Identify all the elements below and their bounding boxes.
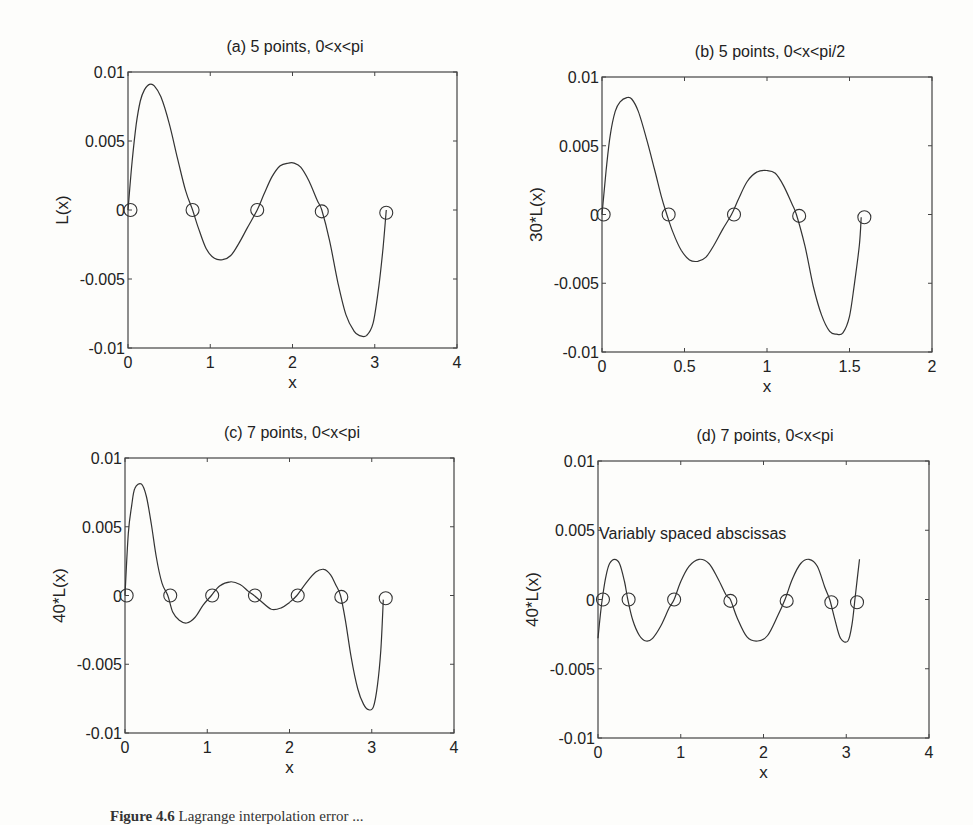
caption-label: Figure 4.6 (110, 808, 175, 824)
y-tick-label: -0.005 (77, 656, 122, 673)
node-marker (379, 592, 392, 605)
subplot-title: (b) 5 points, 0<x<pi/2 (695, 43, 845, 60)
curve-line (128, 84, 386, 337)
x-tick-label: 3 (842, 744, 851, 761)
node-marker (291, 589, 304, 602)
subplot-a: (a) 5 points, 0<x<pi01234-0.01-0.00500.0… (53, 38, 462, 392)
x-tick-label: 1 (203, 739, 212, 756)
x-tick-label: 3 (370, 354, 379, 371)
x-tick-label: 2 (928, 358, 937, 375)
node-marker (164, 589, 177, 602)
y-tick-label: 0.005 (85, 133, 125, 150)
y-tick-label: 0 (586, 592, 595, 609)
node-marker (851, 596, 864, 609)
y-axis-label: 40*L(x) (50, 568, 69, 623)
x-tick-label: 1 (676, 744, 685, 761)
x-tick-label: 4 (450, 739, 459, 756)
y-tick-label: -0.01 (559, 730, 596, 747)
x-tick-label: 2 (759, 744, 768, 761)
y-tick-label: -0.01 (89, 340, 126, 357)
y-axis-label: 40*L(x) (523, 572, 542, 627)
x-axis-label: x (285, 758, 294, 777)
y-tick-label: 0.01 (564, 453, 595, 470)
subplot-title: (d) 7 points, 0<x<pi (697, 427, 834, 444)
caption-text: Lagrange interpolation error ... (178, 808, 363, 824)
y-tick-label: 0.01 (568, 69, 599, 86)
x-tick-label: 2 (288, 354, 297, 371)
y-axis-label: 30*L(x) (527, 187, 546, 242)
curve-line (602, 97, 861, 334)
x-tick-label: 1 (763, 358, 772, 375)
subplot-title: (a) 5 points, 0<x<pi (227, 38, 364, 55)
y-tick-label: 0.01 (94, 64, 125, 81)
curve-line (598, 559, 860, 642)
x-tick-label: 1 (206, 354, 215, 371)
axes-box (128, 72, 457, 348)
x-axis-label: x (763, 377, 772, 396)
x-tick-label: 3 (367, 739, 376, 756)
x-tick-label: 1.5 (838, 358, 860, 375)
node-marker (793, 209, 806, 222)
y-tick-label: -0.01 (563, 344, 600, 361)
x-tick-label: 4 (453, 354, 462, 371)
figure-caption: Figure 4.6 Lagrange interpolation error … (110, 808, 363, 825)
y-tick-label: 0 (113, 588, 122, 605)
y-tick-label: 0.005 (555, 522, 595, 539)
annotation-text: Variably spaced abscissas (599, 525, 786, 542)
node-marker (858, 211, 871, 224)
subplot-b: (b) 5 points, 0<x<pi/200.511.52-0.01-0.0… (527, 43, 937, 396)
y-tick-label: -0.005 (80, 271, 125, 288)
x-tick-label: 0.5 (673, 358, 695, 375)
y-tick-label: 0.01 (91, 450, 122, 467)
subplot-d: (d) 7 points, 0<x<pi01234-0.01-0.00500.0… (523, 427, 934, 782)
y-tick-label: 0.005 (82, 519, 122, 536)
axes-box (598, 461, 929, 738)
axes-box (602, 77, 932, 352)
axes-box (125, 458, 454, 733)
node-marker (206, 589, 219, 602)
y-axis-label: L(x) (53, 195, 72, 224)
y-tick-label: -0.01 (86, 725, 123, 742)
subplot-c: (c) 7 points, 0<x<pi01234-0.01-0.00500.0… (50, 424, 459, 777)
y-tick-label: 0.005 (559, 138, 599, 155)
y-tick-label: 0 (590, 207, 599, 224)
x-axis-label: x (288, 373, 297, 392)
x-tick-label: 2 (285, 739, 294, 756)
y-tick-label: -0.005 (550, 661, 595, 678)
subplot-title: (c) 7 points, 0<x<pi (224, 424, 360, 441)
x-tick-label: 4 (925, 744, 934, 761)
y-tick-label: -0.005 (554, 275, 599, 292)
x-axis-label: x (759, 763, 768, 782)
